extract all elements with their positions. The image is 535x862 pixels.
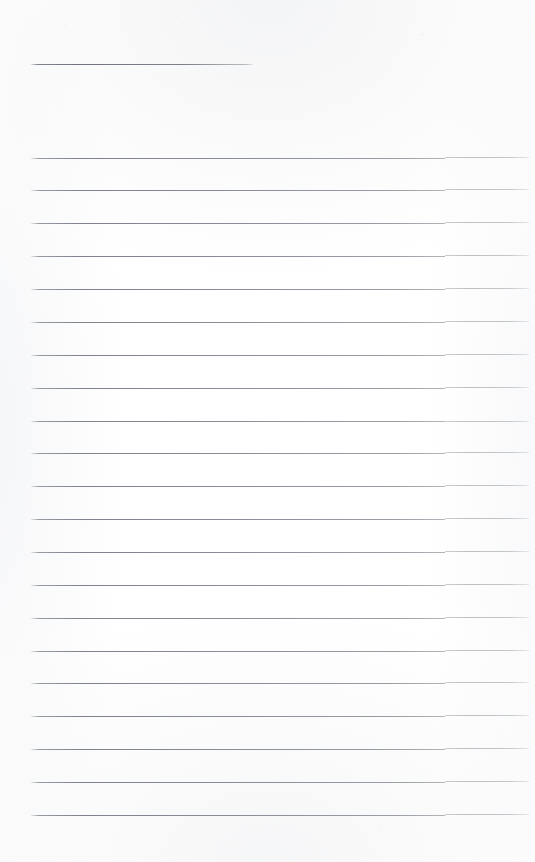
ruled-line-segment-left (31, 355, 445, 356)
ruled-line-segment-right (445, 354, 529, 355)
ruled-line-segment-left (31, 716, 445, 717)
ruled-line-segment-left (31, 815, 445, 816)
ruled-line-segment-left (31, 552, 445, 553)
ruled-line-segment-right (445, 781, 529, 782)
ruled-line-segment-right (445, 551, 529, 552)
scan-speckle-noise (0, 0, 535, 862)
ruled-line-segment-left (31, 683, 445, 684)
ruled-line-segment-left (31, 453, 445, 454)
ruled-line-segment-left (31, 486, 445, 487)
ruled-line-segment-left (31, 651, 445, 652)
ruled-line-segment-left (31, 749, 445, 750)
ruled-line-segment-right (445, 650, 529, 651)
ruled-line-segment-right (445, 189, 529, 190)
ruled-line-segment-right (445, 715, 529, 716)
ruled-line-segment-right (445, 222, 529, 223)
ruled-line-segment-right (445, 288, 529, 289)
ruled-line-segment-right (445, 748, 529, 749)
ruled-line-segment-right (445, 421, 529, 422)
ruled-line-segment-right (445, 321, 529, 322)
ruled-line-segment-right (445, 682, 529, 683)
ruled-line-segment-left (31, 190, 445, 191)
ruled-line-segment-left (31, 519, 445, 520)
ruled-line-segment-right (445, 387, 529, 388)
ruled-line-segment-right (445, 157, 529, 158)
ruled-line-segment-left (31, 421, 445, 422)
ruled-line-segment-right (445, 584, 529, 585)
paper-grain-texture (0, 0, 535, 862)
ruled-line-segment-left (31, 388, 445, 389)
ruled-line-segment-left (31, 223, 445, 224)
ruled-line-segment-left (31, 322, 445, 323)
ruled-line-segment-left (31, 256, 445, 257)
ruled-line-segment-left (31, 782, 445, 783)
ruled-line-segment (31, 64, 253, 65)
ruled-line-segment-left (31, 585, 445, 586)
scanned-page (0, 0, 535, 862)
ruled-line-segment-right (445, 617, 529, 618)
ruled-line-segment-left (31, 618, 445, 619)
ruled-line-segment-left (31, 158, 445, 159)
ruled-line-segment-right (445, 485, 529, 486)
ruled-line-segment-left (31, 289, 445, 290)
ruled-line-segment-right (445, 255, 529, 256)
ruled-line-segment-right (445, 814, 529, 815)
ruled-line-segment-right (445, 452, 529, 453)
ruled-line-segment-right (445, 518, 529, 519)
